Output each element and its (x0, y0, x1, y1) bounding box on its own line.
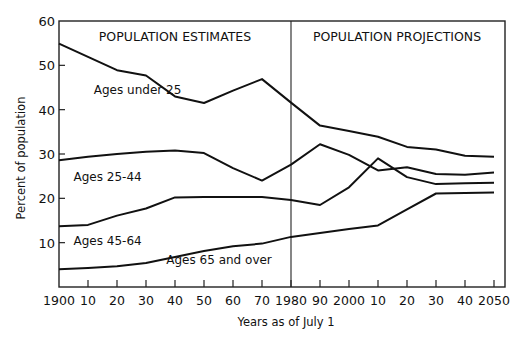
y-axis-label: Percent of population (14, 97, 28, 220)
series-line-ages-under-25 (59, 44, 494, 157)
series-labels: Ages under 25Ages 25-44Ages 45-64Ages 65… (74, 83, 272, 266)
y-tick-label: 20 (38, 191, 55, 206)
series-line-ages-45-64 (59, 158, 494, 226)
series-label: Ages 45-64 (74, 234, 142, 248)
panel-label-projections: POPULATION PROJECTIONS (313, 29, 481, 44)
x-axis-ticks: 1900102030405060701980902000102030402050 (43, 280, 510, 308)
x-tick-label: 50 (196, 293, 212, 308)
series-label: Ages 65 and over (166, 253, 272, 267)
x-tick-label: 2050 (478, 293, 510, 308)
x-tick-label: 30 (428, 293, 444, 308)
y-tick-label: 40 (38, 103, 55, 118)
panel-labels: POPULATION ESTIMATES POPULATION PROJECTI… (99, 29, 481, 44)
y-tick-label: 50 (38, 58, 55, 73)
x-tick-label: 20 (399, 293, 415, 308)
panel-label-estimates: POPULATION ESTIMATES (99, 29, 251, 44)
x-axis-label: Years as of July 1 (236, 315, 334, 329)
series-line-ages-65-and-over (59, 193, 494, 270)
x-tick-label: 10 (80, 293, 96, 308)
x-tick-label: 1980 (275, 293, 307, 308)
x-tick-label: 10 (370, 293, 386, 308)
x-tick-label: 2000 (333, 293, 365, 308)
x-tick-label: 90 (312, 293, 328, 308)
x-tick-label: 40 (167, 293, 183, 308)
series-label: Ages 25-44 (74, 170, 142, 184)
x-tick-label: 1900 (43, 293, 75, 308)
x-tick-label: 20 (109, 293, 125, 308)
x-tick-label: 70 (254, 293, 270, 308)
y-tick-label: 60 (38, 14, 55, 29)
y-axis-ticks: 102030405060 (38, 14, 65, 251)
x-tick-label: 40 (457, 293, 473, 308)
x-tick-label: 30 (138, 293, 154, 308)
y-tick-label: 10 (38, 236, 55, 251)
x-tick-label: 60 (225, 293, 241, 308)
series-label: Ages under 25 (94, 83, 182, 97)
y-tick-label: 30 (38, 147, 55, 162)
population-age-chart: 102030405060 190010203040506070198090200… (0, 0, 523, 345)
